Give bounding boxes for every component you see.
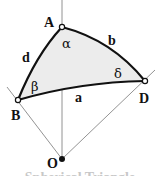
label-vertex-a: A <box>44 15 55 30</box>
label-vertex-b: B <box>11 108 20 123</box>
label-side-a: a <box>75 90 82 105</box>
vertex-a-marker <box>59 24 64 29</box>
label-center-o: O <box>47 156 58 171</box>
label-angle-alpha: α <box>62 36 71 51</box>
label-side-b: b <box>108 33 116 48</box>
label-angle-delta: δ <box>114 66 122 81</box>
ray-o-b <box>7 87 62 159</box>
spherical-triangle-diagram: A B D O b d a α β δ Spherical Triangle <box>0 0 160 176</box>
label-angle-beta: β <box>31 79 39 94</box>
center-o-marker <box>59 156 65 162</box>
vertex-b-marker <box>15 97 20 102</box>
vertex-d-marker <box>142 78 147 83</box>
label-side-d: d <box>22 50 30 65</box>
diagram-caption: Spherical Triangle <box>25 170 135 176</box>
label-vertex-d: D <box>139 91 149 106</box>
